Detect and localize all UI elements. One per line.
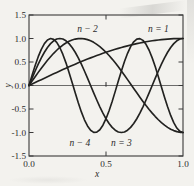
curve-label-1: n = 1 <box>148 24 169 34</box>
curve-label-2: n − 4 <box>69 138 90 148</box>
eigenfunction-line-chart: 1.51.00.50.0-0.5-1.0-1.50.00.51.0n − 2n … <box>0 0 194 186</box>
y-tick-label-4: -0.5 <box>11 104 26 114</box>
plot-svg: 1.51.00.50.0-0.5-1.0-1.50.00.51.0n − 2n … <box>0 0 194 186</box>
y-tick-label-3: 0.0 <box>15 81 27 91</box>
y-tick-label-2: 0.5 <box>15 57 27 67</box>
y-axis-label: y <box>3 83 13 89</box>
y-tick-label-0: 1.5 <box>15 10 27 20</box>
curve-n=1 <box>29 39 183 86</box>
x-axis-label: x <box>94 169 100 179</box>
x-tick-label-2: 1.0 <box>177 159 189 169</box>
x-tick-label-0: 0.0 <box>23 159 35 169</box>
curve-label-3: n = 3 <box>111 138 132 148</box>
x-tick-label-1: 0.5 <box>100 159 112 169</box>
y-tick-label-5: -1.0 <box>11 128 26 138</box>
curve-label-0: n − 2 <box>77 24 98 34</box>
y-tick-label-1: 1.0 <box>15 34 27 44</box>
